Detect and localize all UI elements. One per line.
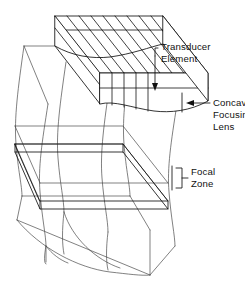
focal-zone-top-face xyxy=(15,144,168,201)
beam-inner-curve-a xyxy=(64,212,120,268)
beam-interior-edge-1 xyxy=(57,62,66,212)
beam-bottom-front-right xyxy=(150,246,175,275)
label-lens-line3: Lens xyxy=(213,121,234,132)
focal-zone-front-face xyxy=(40,201,168,209)
beam-top-depth-left xyxy=(24,46,48,104)
label-lens-line2: Focusing xyxy=(213,109,245,120)
label-transducer-line1: Transducer xyxy=(161,41,211,52)
focal-zone-bracket xyxy=(176,168,182,188)
label-focal-line1: Focal xyxy=(191,166,215,177)
transducer-focusing-diagram: Transducer Element Concave Focusing Lens… xyxy=(0,0,245,288)
beam-front-right-edge xyxy=(168,104,177,246)
label-transducer-line2: Element xyxy=(161,53,197,64)
focal-zone-bottom-back-edge xyxy=(15,152,168,209)
beam-bottom-interior-1 xyxy=(63,212,65,254)
beam-mid-depth-left xyxy=(15,126,40,183)
beam-diverge-back-left xyxy=(17,196,22,220)
beam-front-left-edge xyxy=(39,104,48,246)
beam-mid-rim-upper xyxy=(15,126,168,183)
label-focal-line2: Zone xyxy=(191,178,213,189)
label-lens-line1: Concave xyxy=(213,97,245,108)
beam-bottom-back-left-edge xyxy=(17,220,150,275)
beam-back-left-edge xyxy=(15,46,24,196)
beam-interior-edge-2 xyxy=(101,82,110,232)
beam-bottom-interior-2 xyxy=(107,232,109,270)
focal-zone-pointer xyxy=(172,166,188,190)
figure-root: Transducer Element Concave Focusing Lens… xyxy=(0,0,245,288)
